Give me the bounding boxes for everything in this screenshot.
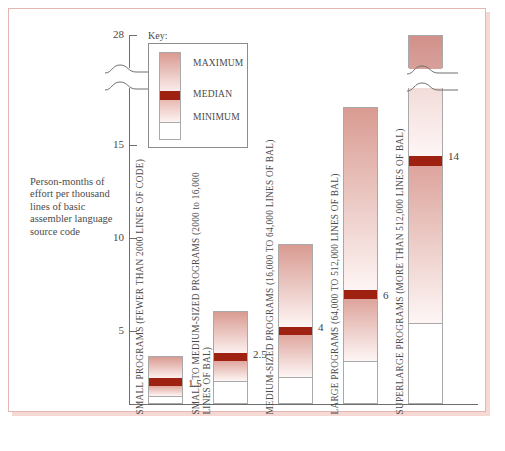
bar-1-upper-gradient (149, 357, 182, 378)
key-minimum-line (160, 122, 180, 123)
key-box: MAXIMUM MEDIAN MINIMUM (148, 43, 248, 148)
bar-5-lower-gradient (409, 166, 442, 323)
y-tick-15 (130, 145, 137, 146)
bar-caption-superlarge-programs: SUPERLARGE PROGRAMS (MORE THAN 512,000 L… (395, 128, 406, 414)
bar-break-squiggle-top (404, 61, 460, 79)
bar-5-minimum-line (409, 323, 442, 324)
bar-1-median-band (149, 378, 182, 386)
bar-1-minimum-line (149, 396, 182, 397)
bar-small-programs[interactable] (148, 356, 183, 404)
bar-caption-large-programs: LARGE PROGRAMS (64,000 TO 512,000 LINES … (330, 173, 341, 414)
key-legend: Key: MAXIMUM MEDIAN MINIMUM (148, 30, 248, 148)
bar-4-minimum-line (344, 361, 377, 362)
key-maximum-gradient (160, 53, 180, 91)
bar-medium-sized-programs[interactable] (278, 244, 313, 404)
key-label-maximum: MAXIMUM (193, 58, 244, 68)
bar-break-squiggle-bottom (404, 79, 460, 97)
bar-2-minimum-line (214, 381, 247, 382)
key-label-minimum: MINIMUM (193, 112, 240, 122)
key-label-median: MEDIAN (193, 89, 232, 99)
bar-large-programs[interactable] (343, 107, 378, 404)
bar-caption-small-to-medium-programs-line2: LINES OF BAL) (202, 347, 213, 415)
y-axis-lower-segment (129, 88, 130, 404)
y-tick-28 (130, 35, 137, 36)
key-sample-bar (159, 52, 181, 140)
bar-3-minimum-line (279, 377, 312, 378)
key-title: Key: (148, 30, 248, 41)
y-tick-label-5: 5 (84, 325, 124, 336)
x-axis-baseline (129, 404, 478, 405)
bar-2-upper-gradient (214, 312, 247, 353)
bar-caption-medium-sized-programs: MEDIUM-SIZED PROGRAMS (16,000 TO 64,000 … (265, 139, 276, 414)
chart-canvas: 28 15 10 5 Person-months of effort per t… (8, 8, 486, 412)
bar-4-median-band (344, 290, 377, 299)
bar-2-median-band (214, 353, 247, 361)
bar-caption-small-to-medium-programs-line1: SMALL TO MEDIUM-SIZED PROGRAMS (2000 to … (191, 172, 202, 414)
key-median-band (160, 91, 180, 100)
bar-2-lower-gradient (214, 361, 247, 381)
bar-3-lower-gradient (279, 335, 312, 377)
key-minimum-gradient (160, 100, 180, 122)
y-axis-description: Person-months of effort per thousand lin… (30, 176, 124, 238)
median-value-5: 14 (448, 150, 459, 162)
bar-4-lower-gradient (344, 299, 377, 361)
bar-1-lower-gradient (149, 386, 182, 396)
median-value-4: 6 (383, 289, 389, 301)
bar-3-upper-gradient (279, 245, 312, 327)
bar-5-upper-gradient (409, 88, 442, 156)
y-tick-label-15: 15 (84, 139, 124, 150)
bar-superlarge-programs[interactable] (408, 88, 443, 404)
bar-5-median-band (409, 156, 442, 166)
bar-3-median-band (279, 327, 312, 335)
median-value-3: 4 (318, 321, 324, 333)
bar-4-upper-gradient (344, 108, 377, 290)
bar-small-to-medium-programs[interactable] (213, 311, 248, 404)
y-tick-label-28: 28 (84, 29, 124, 40)
bar-caption-small-programs: SMALL PROGRAMS (FEWER THAN 2000 LINES OF… (135, 159, 146, 415)
